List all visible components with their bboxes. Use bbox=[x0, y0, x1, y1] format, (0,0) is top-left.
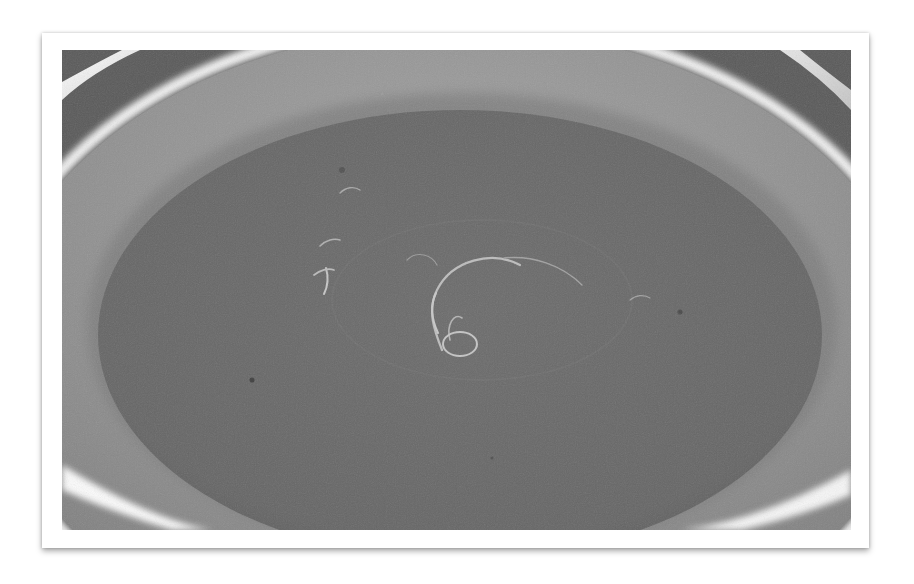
photo-frame: Grayscale photo of a bowl of smooth soup… bbox=[42, 33, 869, 548]
soup-bowl-illustration bbox=[62, 50, 851, 530]
soup-photo: Grayscale photo of a bowl of smooth soup… bbox=[62, 50, 851, 530]
